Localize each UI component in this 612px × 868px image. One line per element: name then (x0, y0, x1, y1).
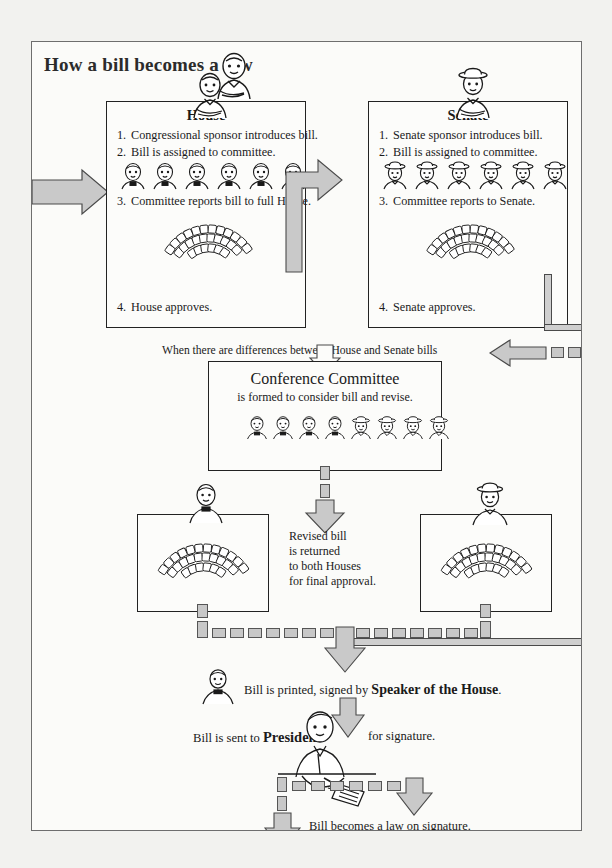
person-head-icon-speaker (200, 667, 236, 705)
differences-left-block-arrow (488, 338, 548, 368)
conference-out-dash-1 (320, 466, 330, 480)
person-with-hat-icon (445, 160, 473, 190)
conference-committee-box: Conference Committee is formed to consid… (208, 361, 442, 471)
law-dash-corner (277, 777, 287, 792)
senate-step-4-text: Senate approves. (393, 300, 476, 314)
bus-dash (392, 628, 406, 638)
senate-step-2-num: 2. (379, 145, 393, 160)
revised-bill-text: Revised bill is returned to both Houses … (289, 529, 376, 589)
person-head-icon (215, 162, 243, 190)
person-head-icon (297, 413, 321, 441)
senate-step-3-num: 3. (379, 194, 393, 209)
president-signing-icon (272, 702, 382, 807)
person-head-icon (245, 413, 269, 441)
conference-members-group (245, 413, 451, 441)
house-chamber-seating-icon (157, 218, 261, 270)
becomes-law-text: Bill becomes a law on signature. (309, 819, 471, 831)
speaker-line: Bill is printed, signed by Speaker of th… (244, 682, 501, 698)
speaker-pre: Bill is printed, signed by (244, 683, 371, 697)
senate-step-1: 1.Senate sponsor introduces bill. (379, 128, 543, 143)
senate-step-1-num: 1. (379, 128, 393, 143)
senate-step-3-text: Committee reports to Senate. (393, 194, 535, 208)
speaker-post: . (498, 683, 501, 697)
return-pipe-horizontal-top (544, 324, 582, 331)
house-step-2-text: Bill is assigned to committee. (131, 145, 276, 159)
house-step-2: 2.Bill is assigned to committee. (117, 145, 276, 160)
person-head-icon-final-house (186, 482, 226, 524)
person-with-hat-icon (375, 413, 399, 441)
person-with-hat-icon (349, 413, 373, 441)
law-dash (368, 781, 382, 791)
bus-dash (428, 628, 442, 638)
person-with-hat-icon (413, 160, 441, 190)
senate-step-4: 4.Senate approves. (379, 300, 476, 315)
law-dash (349, 781, 363, 791)
person-with-hat-icon-senate-top (450, 64, 496, 120)
law-dash (292, 781, 306, 791)
senate-out-dash (480, 604, 491, 618)
house-step-1: 1.Congressional sponsor introduces bill. (117, 128, 318, 143)
bus-right-corner (480, 621, 491, 638)
bus-dash (446, 628, 460, 638)
person-head-icon (323, 413, 347, 441)
bus-dash (374, 628, 388, 638)
revised-line-2: is returned (289, 544, 376, 559)
conference-out-dash-2 (320, 484, 330, 498)
person-head-icon-house-top (187, 71, 233, 121)
house-to-senate-elbow-arrow (276, 142, 376, 272)
house-chamber-seating-icon (152, 535, 256, 591)
law-dash (330, 781, 344, 791)
differences-dash-segment (568, 347, 581, 358)
differences-dash-segment (551, 347, 564, 358)
person-head-icon (271, 413, 295, 441)
bus-dash (302, 628, 316, 638)
house-step-2-num: 2. (117, 145, 131, 160)
person-with-hat-icon-final-senate (469, 478, 511, 526)
return-pipe-vertical-top (544, 274, 552, 330)
bus-dash (464, 628, 478, 638)
person-with-hat-icon (401, 413, 425, 441)
bus-left-corner (197, 621, 208, 638)
president-pre: Bill is sent to (193, 731, 263, 745)
final-senate-chamber-box (420, 514, 552, 612)
house-step-3-num: 3. (117, 194, 131, 209)
bus-dash (230, 628, 244, 638)
senate-box: Senate 1.Senate sponsor introduces bill.… (368, 101, 568, 328)
person-with-hat-icon (541, 160, 569, 190)
return-pipe-horizontal-bottom (346, 638, 582, 646)
bus-dash (284, 628, 298, 638)
senate-step-2-text: Bill is assigned to committee. (393, 145, 538, 159)
person-with-hat-icon (477, 160, 505, 190)
senate-step-1-text: Senate sponsor introduces bill. (393, 128, 543, 142)
person-with-hat-icon (381, 160, 409, 190)
person-head-icon (151, 162, 179, 190)
person-with-hat-icon (427, 413, 451, 441)
senate-step-4-num: 4. (379, 300, 393, 315)
down-arrow-to-speaker (322, 626, 368, 674)
bus-dash (212, 628, 226, 638)
house-out-dash (197, 604, 208, 618)
person-head-icon (247, 162, 275, 190)
senate-chamber-seating-icon (435, 535, 539, 591)
final-house-chamber-box (137, 514, 269, 612)
diagram-page: How a bill becomes a law House 1.Congres… (31, 41, 582, 831)
down-arrow-becomes-law (395, 777, 435, 817)
law-dash (311, 781, 325, 791)
veto-dash (277, 796, 287, 811)
person-head-icon (119, 162, 147, 190)
conference-heading: Conference Committee (209, 370, 441, 388)
revised-line-3: to both Houses (289, 559, 376, 574)
senate-step-2: 2.Bill is assigned to committee. (379, 145, 538, 160)
senate-committee-group (381, 160, 569, 190)
senate-chamber-seating-icon (419, 218, 523, 270)
bus-dash (248, 628, 262, 638)
person-head-icon (183, 162, 211, 190)
house-step-1-text: Congressional sponsor introduces bill. (131, 128, 318, 142)
person-with-hat-icon (509, 160, 537, 190)
differences-note: When there are differences between House… (162, 344, 437, 357)
revised-line-4: for final approval. (289, 574, 376, 589)
house-step-4: 4.House approves. (117, 300, 212, 315)
house-step-4-num: 4. (117, 300, 131, 315)
house-step-4-text: House approves. (131, 300, 212, 314)
speaker-strong: Speaker of the House (371, 682, 498, 697)
